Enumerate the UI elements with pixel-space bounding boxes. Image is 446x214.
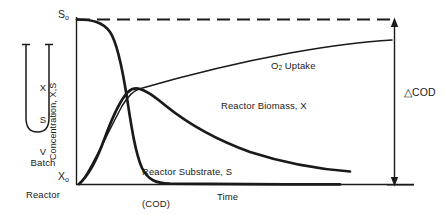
o2-base: O <box>271 60 279 71</box>
delta-cod-text: COD <box>412 86 436 98</box>
o2-uptake-label: O2 Uptake <box>271 61 316 72</box>
o2-rest: Uptake <box>282 60 315 71</box>
reactor-substrate-label-line1: Reactor Substrate, S <box>142 167 232 178</box>
reactor-content-x: X <box>16 83 70 94</box>
reactor-substrate-label: Reactor Substrate, S (COD) <box>142 146 232 214</box>
curve-o2-uptake <box>80 40 392 184</box>
delta-cod-measure-arrow <box>387 18 414 187</box>
y-axis-s0-label: So <box>58 9 69 22</box>
reactor-biomass-label: Reactor Biomass, X <box>221 101 307 112</box>
batch-reactor-caption: Batch Reactor <box>16 137 70 214</box>
batch-reactor-caption-line1: Batch <box>16 158 70 169</box>
reactor-content-s: S <box>16 115 70 126</box>
reactor-substrate-label-line2: (COD) <box>142 199 232 210</box>
batch-reactor-caption-line2: Reactor <box>16 190 70 201</box>
figure-container: Concentration, X,S So Xo Time O2 Uptake … <box>0 0 446 214</box>
s0-subscript: o <box>65 14 69 22</box>
delta-triangle-icon: △ <box>404 86 412 98</box>
delta-cod-label: △COD <box>404 87 436 99</box>
